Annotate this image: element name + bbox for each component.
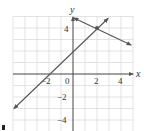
x-tick-4: 4 xyxy=(118,76,123,86)
y-tick-neg2: −2 xyxy=(57,92,67,102)
x-axis-label: x xyxy=(135,68,141,79)
line-2 xyxy=(74,18,131,45)
intersection-point xyxy=(95,26,99,30)
y-tick-neg4: −4 xyxy=(57,115,67,125)
y-axis-label: y xyxy=(69,4,75,15)
x-tick-0: 0 xyxy=(65,76,70,86)
x-tick-neg2: −2 xyxy=(41,76,51,86)
corner-marker xyxy=(2,125,5,130)
x-tick-2: 2 xyxy=(94,76,99,86)
coordinate-graph: y x −2 0 2 4 4 −2 −4 xyxy=(0,0,147,131)
y-tick-4: 4 xyxy=(64,24,69,34)
